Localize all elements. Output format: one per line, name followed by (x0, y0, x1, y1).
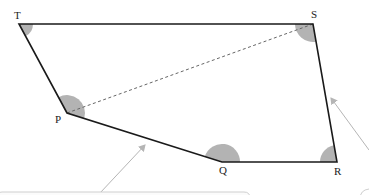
callout-arrow-right (331, 98, 369, 150)
vertex-label-s: S (311, 9, 317, 20)
callout-arrow-left (100, 145, 145, 193)
vertex-label-t: T (14, 10, 21, 21)
callout-box-right (360, 189, 369, 195)
vertex-label-p: P (55, 114, 61, 125)
angle-sector-q (205, 144, 240, 162)
pentagon-diagram (0, 0, 369, 195)
angle-sector-t (19, 24, 33, 36)
diagonal-ps (67, 24, 313, 113)
vertex-label-r: R (334, 166, 341, 177)
vertex-label-q: Q (219, 165, 227, 176)
callout-box-left (0, 192, 250, 195)
pentagon-outline (19, 24, 337, 162)
